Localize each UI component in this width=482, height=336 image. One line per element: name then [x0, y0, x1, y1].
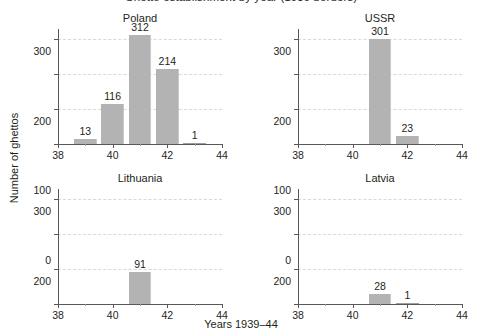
gridline [298, 234, 462, 235]
subplot-poland: Poland131163122141010020030038404244 [22, 12, 222, 150]
bar-value-label: 1 [192, 129, 198, 141]
x-tick-label: 40 [107, 309, 119, 321]
y-tick: 300 [54, 199, 58, 200]
bar [369, 294, 392, 304]
y-tick: 100 [294, 269, 298, 270]
gridline [58, 234, 222, 235]
y-axis-line [58, 189, 59, 304]
x-tick [222, 144, 223, 148]
x-tick-label: 40 [347, 149, 359, 161]
x-tick [113, 144, 114, 148]
bar-value-label: 28 [374, 280, 386, 292]
plot-area: 91010020030038404244 [58, 189, 222, 304]
x-tick [298, 144, 299, 148]
x-tick-label: 42 [401, 309, 413, 321]
gridline [58, 199, 222, 200]
gridline [298, 269, 462, 270]
y-tick: 100 [54, 269, 58, 270]
x-tick [167, 144, 168, 148]
x-tick [298, 304, 299, 308]
x-tick-minor [140, 304, 141, 306]
y-tick-label: 200 [33, 275, 51, 287]
subplot-title: Latvia [298, 172, 462, 184]
x-tick-minor [85, 144, 86, 146]
chart-title: Ghetto establishment by year (1939 borde… [0, 0, 482, 3]
x-tick [113, 304, 114, 308]
x-tick [462, 304, 463, 308]
bar [369, 39, 392, 144]
plot-area: 281010020030038404244 [298, 189, 462, 304]
y-tick: 300 [294, 39, 298, 40]
y-tick: 100 [294, 109, 298, 110]
bar [129, 272, 152, 304]
x-tick [58, 144, 59, 148]
x-tick [167, 304, 168, 308]
bar-value-label: 23 [401, 122, 413, 134]
subplot-ussr: USSR30123010020030038404244 [262, 12, 462, 150]
x-tick-minor [85, 304, 86, 306]
bar-value-label: 91 [134, 258, 146, 270]
bar [396, 136, 419, 144]
y-tick-label: 300 [33, 205, 51, 217]
y-tick: 200 [54, 234, 58, 235]
x-tick-label: 44 [216, 309, 228, 321]
x-tick-minor [325, 144, 326, 146]
x-tick-minor [435, 304, 436, 306]
y-tick-label: 300 [33, 45, 51, 57]
plot-area: 131163122141010020030038404244 [58, 29, 222, 144]
x-tick-minor [325, 304, 326, 306]
x-tick-minor [380, 304, 381, 306]
gridline [298, 199, 462, 200]
subplot-lithuania: Lithuania91010020030038404244 [22, 172, 222, 310]
x-tick [222, 304, 223, 308]
bar-value-label: 214 [159, 55, 177, 67]
x-tick-label: 38 [52, 309, 64, 321]
bar-value-label: 312 [131, 21, 149, 33]
x-tick [353, 304, 354, 308]
x-tick [407, 144, 408, 148]
subplot-title: Lithuania [58, 172, 222, 184]
y-tick: 200 [294, 74, 298, 75]
x-tick [462, 144, 463, 148]
bar [129, 35, 152, 144]
x-tick-minor [195, 144, 196, 146]
x-tick-label: 42 [401, 149, 413, 161]
y-axis-label: Number of ghettos [8, 83, 20, 233]
subplot-latvia: Latvia281010020030038404244 [262, 172, 462, 310]
x-tick-label: 44 [456, 309, 468, 321]
x-tick-minor [140, 144, 141, 146]
x-tick-minor [195, 304, 196, 306]
y-tick-label: 200 [273, 275, 291, 287]
y-axis-line [298, 189, 299, 304]
bar-value-label: 116 [104, 90, 121, 102]
subplot-title: USSR [298, 12, 462, 24]
x-tick-label: 40 [347, 309, 359, 321]
y-tick: 100 [54, 109, 58, 110]
x-tick [353, 144, 354, 148]
y-tick: 300 [294, 199, 298, 200]
bar-value-label: 1 [404, 289, 410, 301]
x-tick-label: 42 [161, 149, 173, 161]
plot-area: 30123010020030038404244 [298, 29, 462, 144]
y-tick: 300 [54, 39, 58, 40]
x-tick [58, 304, 59, 308]
x-tick [407, 304, 408, 308]
bar [101, 104, 124, 144]
y-tick-label: 200 [33, 115, 51, 127]
chart-figure: Ghetto establishment by year (1939 borde… [0, 0, 482, 336]
y-tick: 200 [54, 74, 58, 75]
x-tick-label: 44 [456, 149, 468, 161]
x-tick-label: 38 [52, 149, 64, 161]
bar [156, 69, 179, 144]
y-tick-label: 200 [273, 115, 291, 127]
x-tick-label: 38 [292, 309, 304, 321]
x-tick-label: 42 [161, 309, 173, 321]
bar-value-label: 13 [79, 125, 91, 137]
x-tick-label: 40 [107, 149, 119, 161]
y-tick: 200 [294, 234, 298, 235]
x-tick-label: 44 [216, 149, 228, 161]
x-tick-minor [380, 144, 381, 146]
y-tick-label: 300 [273, 45, 291, 57]
x-tick-label: 38 [292, 149, 304, 161]
y-axis-line [58, 29, 59, 144]
